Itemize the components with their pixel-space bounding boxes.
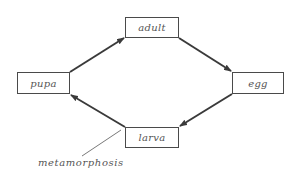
node-adult: adult [125,17,179,38]
node-larva: larva [125,127,179,148]
node-larva-label: larva [138,132,165,143]
node-adult-label: adult [138,22,166,33]
node-egg: egg [232,72,284,94]
arrow-adult-to-egg [179,38,231,71]
arrow-egg-to-larva [180,94,232,126]
metamorphosis-annotation: metamorphosis [38,157,124,168]
metamorphosis-leader-line [82,130,121,156]
life-cycle-diagram: adult egg larva pupa metamorphosis [0,0,298,180]
node-egg-label: egg [248,78,268,89]
node-pupa: pupa [17,72,70,94]
node-pupa-label: pupa [30,78,56,89]
arrow-pupa-to-adult [70,38,124,72]
arrow-larva-to-pupa [71,95,125,127]
